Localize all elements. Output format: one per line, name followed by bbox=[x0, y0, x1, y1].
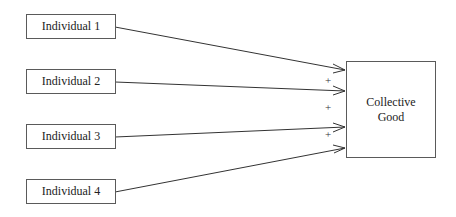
collective-good-line1: Collective bbox=[366, 95, 415, 110]
individual-4-box: Individual 4 bbox=[26, 179, 116, 204]
individual-1-box: Individual 1 bbox=[26, 14, 116, 39]
individual-1-label: Individual 1 bbox=[42, 19, 100, 34]
arrow-2 bbox=[115, 82, 345, 91]
plus-sign-1: + bbox=[325, 74, 331, 86]
arrow-4 bbox=[115, 148, 345, 192]
plus-sign-2: + bbox=[325, 101, 331, 113]
individual-2-label: Individual 2 bbox=[42, 74, 100, 89]
individual-3-label: Individual 3 bbox=[42, 129, 100, 144]
individual-4-label: Individual 4 bbox=[42, 184, 100, 199]
plus-sign-3: + bbox=[325, 128, 331, 140]
collective-good-box: Collective Good bbox=[346, 61, 436, 158]
individual-2-box: Individual 2 bbox=[26, 69, 116, 94]
collective-good-line2: Good bbox=[378, 110, 405, 125]
arrow-1 bbox=[115, 27, 345, 70]
arrow-3 bbox=[115, 127, 345, 137]
individual-3-box: Individual 3 bbox=[26, 124, 116, 149]
